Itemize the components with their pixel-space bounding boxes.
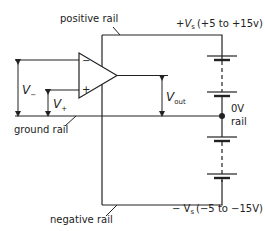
zero-v-node bbox=[219, 113, 225, 119]
positive-rail-leader bbox=[113, 27, 120, 35]
negative-supply-label-text: − Vs(−5 to −15V) bbox=[172, 203, 263, 216]
positive-supply-label: +Vs(+5 to +15v) bbox=[176, 18, 263, 31]
zero-v-label: 0V bbox=[231, 103, 244, 114]
zero-v-rail-label: rail bbox=[231, 116, 247, 127]
v-minus-label: V− bbox=[22, 83, 36, 99]
ground-rail-label: ground rail bbox=[14, 124, 68, 135]
op-amp-rails-diagram: − + positive rail ground rail negative r… bbox=[0, 0, 265, 231]
negative-rail-label: negative rail bbox=[50, 214, 113, 225]
positive-rail-label: positive rail bbox=[60, 13, 118, 24]
positive-rail-line bbox=[102, 35, 222, 56]
inverting-input-sign: − bbox=[82, 55, 90, 66]
noninverting-input-sign: + bbox=[82, 84, 90, 95]
v-plus-label: V+ bbox=[53, 97, 67, 113]
v-out-label: Vout bbox=[166, 90, 186, 106]
negative-rail-line bbox=[102, 180, 222, 205]
